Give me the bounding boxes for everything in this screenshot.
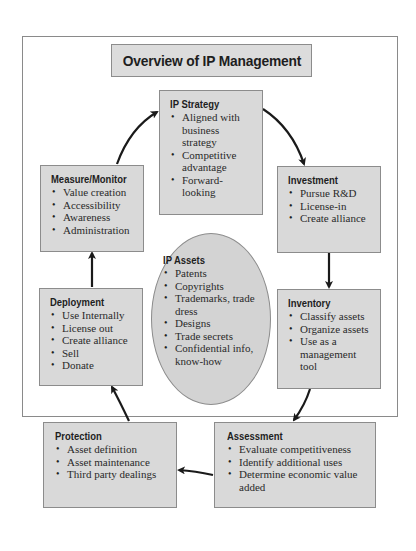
list-item: Awareness <box>51 211 137 224</box>
list-item: Accessibility <box>51 199 137 212</box>
ip-assets-title: IP Assets <box>163 254 257 266</box>
stage-title: Protection <box>55 430 159 442</box>
list-item: Administration <box>51 224 137 237</box>
list-item: Designs <box>163 317 267 330</box>
stage-title: Deployment <box>50 296 127 308</box>
stage-title: Measure/Monitor <box>51 173 128 185</box>
list-item: Create alliance <box>288 212 374 225</box>
list-item: Copyrights <box>163 280 267 293</box>
list-item: Determine economic value added <box>227 468 369 493</box>
stage-title: Investment <box>288 174 365 186</box>
ip-assets-content: IP Assets Patents Copyrights Trademarks,… <box>163 254 267 367</box>
stage-title: Assessment <box>227 430 355 442</box>
list-item: Donate <box>50 359 136 372</box>
list-item: Pursue R&D <box>288 187 374 200</box>
list-item: Use Internally <box>50 309 136 322</box>
list-item: Trade secrets <box>163 330 267 343</box>
list-item: Aligned with business strategy <box>170 111 256 149</box>
stage-inventory: Inventory Classify assets Organize asset… <box>277 289 381 389</box>
list-item: License-in <box>288 200 374 213</box>
list-item: License out <box>50 322 136 335</box>
list-item: Trademarks, trade dress <box>163 292 261 317</box>
stage-assessment: Assessment Evaluate competitiveness Iden… <box>214 422 376 508</box>
diagram-title: Overview of IP Management <box>122 52 300 69</box>
stage-measure-monitor: Measure/Monitor Value creation Accessibi… <box>40 165 144 252</box>
stage-protection: Protection Asset definition Asset mainte… <box>43 422 177 508</box>
list-item: Organize assets <box>288 323 374 336</box>
stage-deployment: Deployment Use Internally License out Cr… <box>39 288 143 386</box>
list-item: Sell <box>50 347 136 360</box>
stage-title: IP Strategy <box>170 98 247 110</box>
list-item: Asset maintenance <box>55 456 170 469</box>
list-item: Patents <box>163 267 267 280</box>
list-item: Value creation <box>51 186 137 199</box>
list-item: Use as a management tool <box>288 335 374 373</box>
list-item: Create alliance <box>50 334 136 347</box>
stage-ip-strategy: IP Strategy Aligned with business strate… <box>159 90 263 215</box>
list-item: Third party dealings <box>55 468 170 481</box>
list-item: Identify additional uses <box>227 456 369 469</box>
stage-title: Inventory <box>288 297 365 309</box>
list-item: Confidential info, know-how <box>163 342 261 367</box>
list-item: Asset definition <box>55 443 170 456</box>
list-item: Forward-looking <box>170 174 256 199</box>
list-item: Classify assets <box>288 310 374 323</box>
stage-investment: Investment Pursue R&D License-in Create … <box>277 166 381 253</box>
list-item: Evaluate competitiveness <box>227 443 369 456</box>
title-box: Overview of IP Management <box>111 44 312 77</box>
list-item: Competitive advantage <box>170 149 256 174</box>
arrow-assessment-to-protection <box>179 470 213 475</box>
